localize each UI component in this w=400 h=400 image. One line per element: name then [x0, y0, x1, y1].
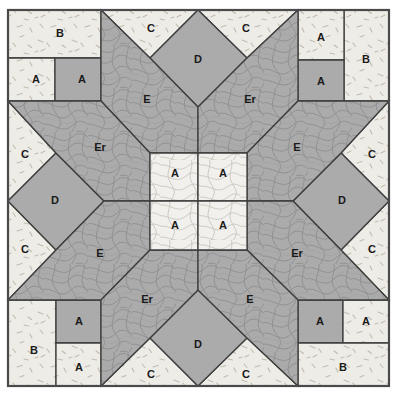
- corner-unit-top-right: [298, 10, 389, 101]
- piece-A-center-top-right: [198, 153, 247, 201]
- quilt-block-canvas: BAAAABBAAAABCCDCCDCCDCCDEErErEEErErEAAAA: [0, 0, 400, 400]
- piece-A-top-right-gray: [298, 60, 344, 101]
- piece-A-bottom-right-light: [343, 300, 389, 343]
- piece-A-bottom-left-gray: [56, 300, 101, 343]
- corner-unit-bottom-left: [8, 300, 101, 386]
- piece-A-top-right-light: [298, 10, 344, 60]
- corner-unit-top-left: [8, 10, 101, 101]
- piece-A-center-bottom-right: [198, 201, 247, 250]
- piece-A-bottom-right-gray: [298, 300, 343, 343]
- quilt-block-diagram: BAAAABBAAAABCCDCCDCCDCCDEErErEEErErEAAAA: [0, 0, 400, 400]
- piece-A-center-bottom-left: [150, 201, 198, 250]
- piece-B-bottom-right: [298, 343, 389, 386]
- piece-B-top-left: [8, 10, 101, 58]
- piece-A-top-left-light: [8, 58, 55, 101]
- piece-B-top-right: [344, 10, 389, 101]
- piece-B-bottom-left: [8, 300, 56, 386]
- piece-A-center-top-left: [150, 153, 198, 201]
- piece-A-bottom-left-light: [56, 343, 101, 386]
- piece-A-top-left-gray: [55, 58, 101, 101]
- corner-unit-bottom-right: [298, 300, 389, 386]
- center-four-patch: [150, 153, 247, 250]
- block-body: [8, 10, 389, 386]
